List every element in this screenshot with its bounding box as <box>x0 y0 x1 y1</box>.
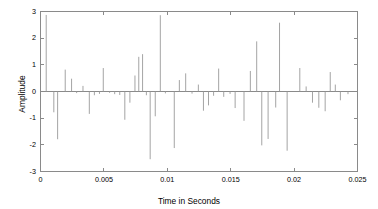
stem-series <box>46 15 348 159</box>
x-tick-label: 0 <box>11 175 71 184</box>
chart-figure: 00.0050.010.0150.020.025 -3-2-10123 Time… <box>0 0 378 209</box>
y-tick-label: 3 <box>10 7 36 16</box>
x-tick-label: 0.025 <box>328 175 378 184</box>
x-tick-label: 0.005 <box>74 175 134 184</box>
x-tick-label: 0.015 <box>201 175 261 184</box>
y-axis-title-text: Amplitude <box>17 75 27 112</box>
x-axis-title-text: Time in Seconds <box>158 196 220 206</box>
x-tick-label: 0.01 <box>137 175 197 184</box>
x-axis-title: Time in Seconds <box>0 190 378 208</box>
y-tick-label: -3 <box>10 167 36 176</box>
x-tick-label: 0.02 <box>264 175 324 184</box>
y-axis-title: Amplitude <box>11 44 29 144</box>
y-tick-label: 2 <box>10 33 36 42</box>
